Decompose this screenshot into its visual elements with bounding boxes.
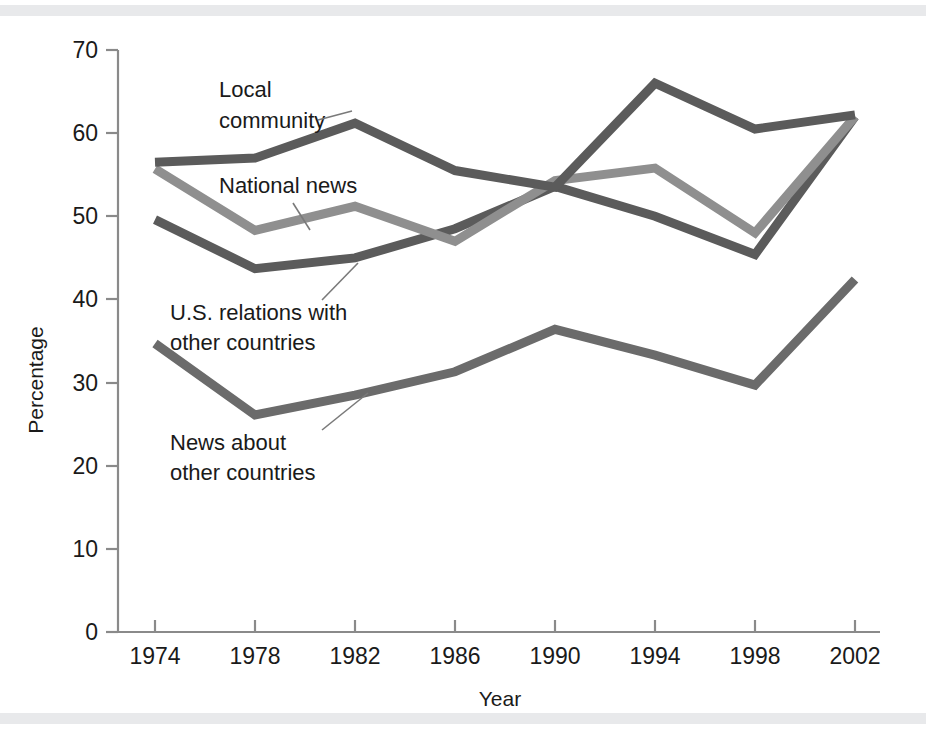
x-tick-label-1974: 1974 xyxy=(129,643,180,669)
x-tick-label-1986: 1986 xyxy=(429,643,480,669)
x-tick-label-1982: 1982 xyxy=(329,643,380,669)
y-tick-label-0: 0 xyxy=(85,619,98,645)
chart-figure: 70 60 50 40 30 20 10 0 1974 1978 1982 19… xyxy=(0,0,926,738)
annotation-local-community-line1: Local xyxy=(219,77,272,102)
y-tick-label-60: 60 xyxy=(72,120,98,146)
y-tick-label-10: 10 xyxy=(72,536,98,562)
leader-line-us-relations xyxy=(322,263,358,300)
x-tick-label-1994: 1994 xyxy=(629,643,680,669)
annotation-news-other-line1: News about xyxy=(170,430,286,455)
y-axis-title: Percentage xyxy=(24,326,47,433)
annotation-us-relations-line2: other countries xyxy=(170,330,316,355)
y-tick-label-30: 30 xyxy=(72,370,98,396)
annotation-news-about-other-countries: News about other countries xyxy=(170,393,368,485)
x-axis-title: Year xyxy=(479,687,521,710)
y-tick-label-20: 20 xyxy=(72,453,98,479)
x-axis xyxy=(118,620,880,632)
y-tick-label-50: 50 xyxy=(72,203,98,229)
annotation-us-relations-line1: U.S. relations with xyxy=(170,300,347,325)
annotation-news-other-line2: other countries xyxy=(170,460,316,485)
x-tick-label-1998: 1998 xyxy=(729,643,780,669)
y-tick-labels: 70 60 50 40 30 20 10 0 xyxy=(72,37,98,645)
annotation-us-relations: U.S. relations with other countries xyxy=(170,263,358,355)
x-tick-labels: 1974 1978 1982 1986 1990 1994 1998 2002 xyxy=(129,643,880,669)
x-tick-label-1990: 1990 xyxy=(529,643,580,669)
y-axis xyxy=(106,50,118,632)
x-tick-label-1978: 1978 xyxy=(229,643,280,669)
x-tick-label-2002: 2002 xyxy=(829,643,880,669)
line-chart-svg: 70 60 50 40 30 20 10 0 1974 1978 1982 19… xyxy=(0,0,926,738)
annotation-national-news-line1: National news xyxy=(219,173,357,198)
annotation-local-community-line2: community xyxy=(219,108,325,133)
y-tick-label-70: 70 xyxy=(72,37,98,63)
y-tick-label-40: 40 xyxy=(72,286,98,312)
annotation-local-community: Local community xyxy=(219,77,352,133)
